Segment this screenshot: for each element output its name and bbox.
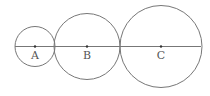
center-dot-c bbox=[160, 45, 162, 47]
three-tangent-circles-diagram: A B C bbox=[0, 0, 210, 96]
label-c: C bbox=[157, 49, 165, 62]
center-dot-a bbox=[34, 45, 36, 47]
center-dot-b bbox=[86, 45, 88, 47]
label-b: B bbox=[83, 49, 91, 62]
label-a: A bbox=[30, 49, 40, 62]
